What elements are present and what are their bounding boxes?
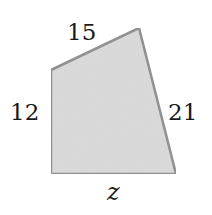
quadrilateral-diagram: 15 12 21 z [0, 0, 212, 215]
quadrilateral-shape [51, 28, 176, 174]
side-label-left: 12 [10, 99, 39, 125]
side-label-bottom: z [106, 178, 120, 206]
side-label-right: 21 [168, 99, 197, 125]
side-label-top: 15 [67, 19, 96, 45]
